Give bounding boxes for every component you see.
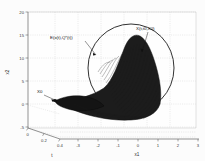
axis-title-x2: x2 (5, 69, 10, 74)
xtick-label-6: 3 (197, 143, 200, 148)
axis-ticks-t: 0 0.2 0.4 (27, 128, 64, 148)
ytick-label-5: -5 (20, 125, 24, 130)
ytick-label-1: 15 (19, 33, 24, 38)
axis-title-x1: x1 (135, 152, 140, 157)
annotation-reachable-set-label: X(t,t0,X0) (136, 26, 155, 31)
ttick-label-0: 0 (27, 132, 30, 137)
ttick-label-1: 0.2 (41, 138, 47, 143)
plot-area: 20 15 10 5 0 -5 x2 0 0.2 0.4 t (0, 0, 205, 161)
ytick-label-2: 10 (19, 56, 24, 61)
xtick-label-0: -3 (76, 143, 80, 148)
figure-canvas: 20 15 10 5 0 -5 x2 0 0.2 0.4 t (0, 0, 205, 161)
axis-ticks-x2: 20 15 10 5 0 -5 (19, 10, 28, 130)
axis-ticks-x1: -3 -2 -1 0 1 2 3 (76, 139, 200, 148)
annotation-ellipsoid-label: E(x(t),Q*(t)) (50, 35, 73, 40)
xtick-label-4: 1 (157, 143, 160, 148)
xtick-label-1: -2 (96, 143, 100, 148)
ytick-label-3: 5 (22, 79, 25, 84)
ytick-label-0: 20 (19, 10, 24, 15)
axis-title-t: t (51, 153, 53, 158)
xtick-label-3: 0 (137, 143, 140, 148)
ttick-label-2: 0.4 (57, 143, 63, 148)
xtick-label-2: -1 (116, 143, 120, 148)
ytick-label-4: 0 (22, 102, 25, 107)
annotation-initial-set-label: X0 (37, 89, 43, 94)
xtick-label-5: 2 (177, 143, 180, 148)
